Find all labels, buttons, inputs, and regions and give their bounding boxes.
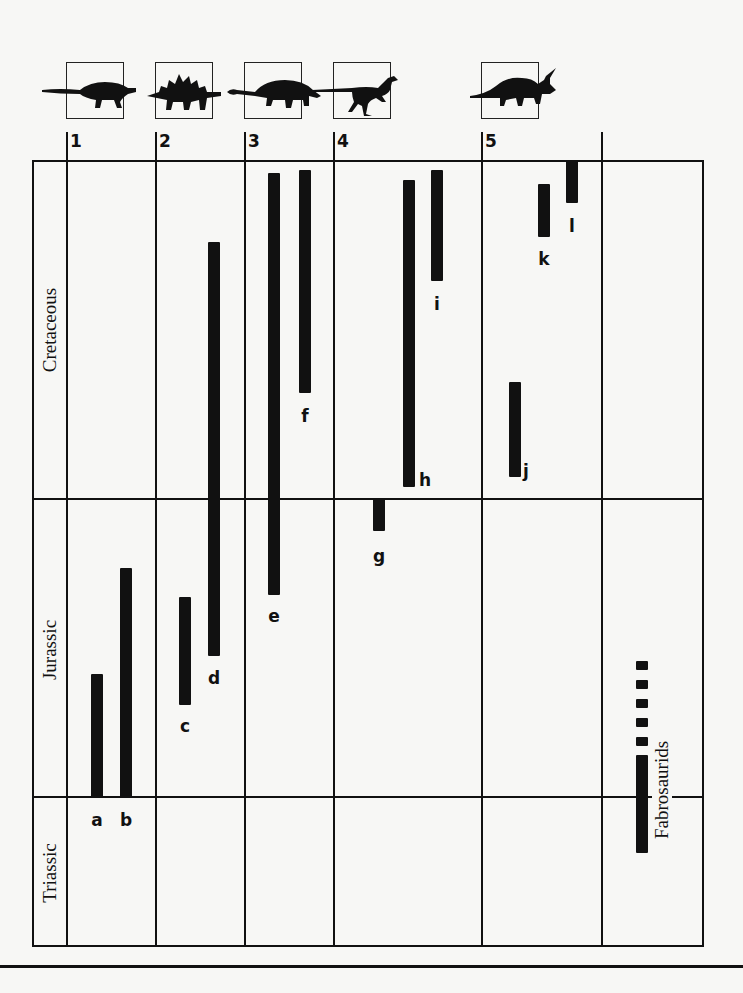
fabrosaurids-dash-4 (636, 718, 648, 727)
range-bar-d (208, 242, 220, 656)
range-bar-e (268, 173, 280, 595)
grid-col-2 (155, 160, 157, 947)
grid-right (702, 160, 704, 947)
column-number-3: 3 (248, 133, 260, 150)
range-bar-h (403, 180, 415, 487)
range-label-a: a (91, 812, 102, 829)
column-number-4: 4 (337, 133, 349, 150)
fabrosaurids-dash-2 (636, 680, 648, 689)
grid-jurassic-triassic-boundary (32, 796, 704, 798)
page-bottom-rule (0, 965, 743, 968)
fabrosaurids-dash-3 (636, 699, 648, 708)
range-label-c: c (180, 718, 190, 735)
column-tick-1 (66, 132, 68, 161)
grid-bottom (32, 945, 704, 947)
ornithopod-dinosaur-icon (312, 74, 400, 118)
column-tick-5 (481, 132, 483, 161)
column-tick-3 (244, 132, 246, 161)
grid-cretaceous-jurassic-boundary (32, 498, 704, 500)
range-label-d: d (208, 670, 220, 687)
ceratopsian-dinosaur-icon (466, 64, 566, 116)
period-label-cretaceous: Cretaceous (39, 288, 61, 372)
column-tick-4 (333, 132, 335, 161)
stegosaur-dinosaur-icon (145, 66, 225, 114)
column-number-5: 5 (485, 133, 497, 150)
period-label-jurassic: Jurassic (39, 620, 61, 680)
period-label-triassic: Triassic (39, 843, 61, 902)
range-bar-a (91, 674, 103, 797)
grid-top (32, 160, 704, 162)
range-bar-g (373, 499, 385, 531)
range-bar-f (299, 170, 311, 393)
grid-col-5 (481, 160, 483, 947)
range-label-h: h (419, 472, 431, 489)
range-label-g: g (373, 548, 385, 565)
range-label-f: f (301, 408, 308, 425)
grid-col-3 (244, 160, 246, 947)
range-bar-c (179, 597, 191, 705)
range-bar-l (566, 161, 578, 203)
grid-col-1 (66, 160, 68, 947)
range-label-i: i (434, 296, 440, 313)
range-label-j: j (523, 463, 529, 480)
range-label-e: e (268, 608, 280, 625)
fabrosaurids-dash-1 (636, 661, 648, 670)
ankylosaur-dinosaur-icon (225, 70, 325, 114)
range-label-k: k (538, 251, 549, 268)
range-bar-j (509, 382, 521, 477)
column-tick-2 (155, 132, 157, 161)
range-bar-i (431, 170, 443, 281)
fabrosaurids-solid (636, 755, 648, 853)
fabrosaurids-dash-5 (636, 737, 648, 746)
range-label-b: b (120, 812, 132, 829)
fabrosaurids-label: Fabrosaurids (651, 741, 673, 839)
grid-col-6 (601, 160, 603, 947)
range-label-l: l (569, 218, 575, 235)
grid-col-4 (333, 160, 335, 947)
range-bar-b (120, 568, 132, 797)
range-bar-k (538, 184, 550, 237)
grid-left (32, 160, 34, 947)
column-number-2: 2 (159, 133, 171, 150)
column-tick-6 (601, 132, 603, 161)
column-number-1: 1 (70, 133, 82, 150)
ankylosaur-like-dinosaur-icon (40, 70, 140, 115)
